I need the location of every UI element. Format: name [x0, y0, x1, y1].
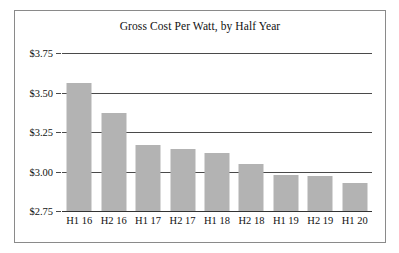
y-axis-tick: [56, 211, 61, 212]
bar: [170, 149, 195, 211]
x-axis-tick-label: H1 18: [204, 215, 230, 226]
y-axis-tick: [56, 132, 61, 133]
y-axis-tick-label: $3.00: [29, 166, 53, 177]
bars-group: H1 16H2 16H1 17H2 17H1 18H2 18H1 19H2 19…: [62, 53, 372, 211]
chart-figure: Gross Cost Per Watt, by Half Year $3.75$…: [14, 10, 386, 243]
bar: [101, 113, 126, 211]
bar: [204, 153, 229, 211]
y-axis-tick-label: $3.50: [29, 87, 53, 98]
y-axis-tick: [56, 53, 61, 54]
x-axis-tick-label: H2 16: [101, 215, 127, 226]
x-axis-tick-label: H1 19: [273, 215, 299, 226]
x-axis-tick-label: H1 16: [66, 215, 92, 226]
plot-area: $3.75$3.50$3.25$3.00$2.75 H1 16H2 16H1 1…: [62, 53, 372, 211]
bar-slot: H2 16: [96, 53, 130, 211]
bar-slot: H2 18: [234, 53, 268, 211]
y-axis-tick: [56, 172, 61, 173]
bar-slot: H2 19: [303, 53, 337, 211]
bar-slot: H1 19: [269, 53, 303, 211]
x-axis-tick-label: H1 17: [135, 215, 161, 226]
bar-slot: H1 20: [338, 53, 372, 211]
bar-slot: H1 18: [200, 53, 234, 211]
x-axis-tick-label: H2 18: [238, 215, 264, 226]
y-axis-tick-label: $3.25: [29, 127, 53, 138]
y-axis-tick-label: $3.75: [29, 48, 53, 59]
bar: [67, 83, 92, 211]
bar-slot: H1 17: [131, 53, 165, 211]
bar: [273, 175, 298, 211]
x-axis-tick-label: H2 17: [170, 215, 196, 226]
axis-baseline: [62, 211, 372, 212]
bar: [239, 164, 264, 211]
y-axis-tick: [56, 93, 61, 94]
bar-slot: H1 16: [62, 53, 96, 211]
bar: [342, 183, 367, 211]
bar: [308, 176, 333, 211]
y-axis-tick-label: $2.75: [29, 206, 53, 217]
bar: [136, 145, 161, 211]
chart-title: Gross Cost Per Watt, by Half Year: [15, 20, 385, 32]
x-axis-tick-label: H1 20: [342, 215, 368, 226]
bar-slot: H2 17: [165, 53, 199, 211]
x-axis-tick-label: H2 19: [307, 215, 333, 226]
